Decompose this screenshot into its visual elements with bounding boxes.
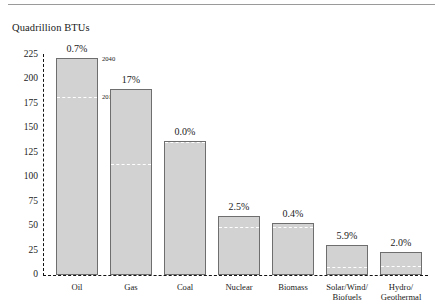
data-label-growth: 0.0% [150,127,220,137]
bar-coal[interactable] [164,141,206,275]
bar-hydro-geothermal[interactable] [380,252,422,275]
y-axis-tick-label: 75 [6,197,38,207]
x-axis-label-hydro-geothermal: Hydro/Geothermal [364,282,438,302]
x-axis-label-line: Geothermal [364,292,438,302]
reference-line-2010 [273,227,313,228]
reference-line-2010 [111,164,151,165]
bar-biomass[interactable] [272,223,314,275]
y-axis-tick-label: 200 [6,74,38,84]
chart-container: Quadrillion BTUs 02550751001251501752002… [0,0,443,306]
y-axis-tick-label: 25 [6,246,38,256]
y-axis-tick-label: 50 [6,221,38,231]
reference-line-2010 [327,267,367,268]
series-annotation-2040: 2040 [102,55,115,62]
y-axis-tick-label: 225 [6,50,38,60]
reference-line-2010 [57,97,97,98]
plot-area: 0255075100125150175200225 0.7%Oil2040201… [0,0,443,306]
reference-line-2010 [381,266,421,267]
x-axis-label-line: Hydro/ [364,282,438,292]
data-label-growth: 17% [96,75,166,85]
y-axis-tick-label: 175 [6,99,38,109]
bar-nuclear[interactable] [218,216,260,275]
y-axis-tick-label: 100 [6,172,38,182]
reference-line-2010 [165,142,205,143]
data-label-growth: 2.0% [366,238,436,248]
x-axis-line [43,275,428,276]
bar-gas[interactable] [110,89,152,275]
data-label-growth: 0.7% [42,44,112,54]
y-axis-tick-label: 125 [6,148,38,158]
y-axis-line [43,54,44,276]
bar-oil[interactable] [56,58,98,275]
bar-solar-wind-biofuels[interactable] [326,245,368,275]
y-axis-tick-labels: 0255075100125150175200225 [4,0,38,306]
data-label-growth: 0.4% [258,209,328,219]
y-axis-tick-label: 150 [6,123,38,133]
reference-line-2010 [219,227,259,228]
y-axis-tick-label: 0 [6,270,38,280]
